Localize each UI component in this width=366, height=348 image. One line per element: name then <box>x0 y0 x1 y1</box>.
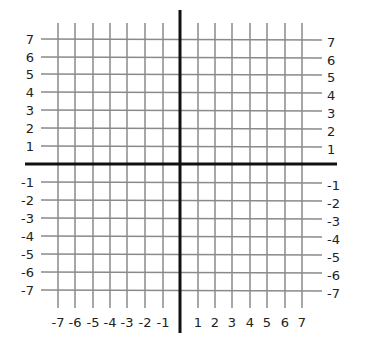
y-axis-label-right: -1 <box>327 178 340 193</box>
y-axis-label-right: 2 <box>327 124 335 139</box>
y-axis-label-left: 2 <box>26 121 34 136</box>
y-axis-label-right: 6 <box>327 53 335 68</box>
y-axis-label-left: -3 <box>21 211 34 226</box>
y-axis-label-left: 4 <box>26 85 34 100</box>
y-axis-label-right: -6 <box>327 268 340 283</box>
x-axis-label: -3 <box>121 315 134 330</box>
y-axis-label-left: -6 <box>21 265 34 280</box>
y-axis-label-right: -4 <box>327 232 340 247</box>
y-axis-label-left: 5 <box>26 67 34 82</box>
y-axis-label-left: 3 <box>26 103 34 118</box>
y-axis-label-right: -5 <box>327 250 340 265</box>
y-axis-label-right: -3 <box>327 214 340 229</box>
x-axis-label: -6 <box>69 315 82 330</box>
y-axis-label-left: 6 <box>26 50 34 65</box>
coordinate-plane: -7-6-5-4-3-2-112345677654321-1-2-3-4-5-6… <box>0 0 366 348</box>
y-axis-label-right: -7 <box>327 286 340 301</box>
x-axis-label: -5 <box>87 315 100 330</box>
y-axis-label-left: -5 <box>21 247 34 262</box>
x-axis-label: 7 <box>298 315 306 330</box>
y-axis-label-left: -7 <box>21 283 34 298</box>
x-axis-label: 5 <box>263 315 271 330</box>
y-axis-label-right: -2 <box>327 196 340 211</box>
y-axis-label-left: 7 <box>26 32 34 47</box>
y-axis-label-right: 7 <box>327 35 335 50</box>
y-axis-label-left: -4 <box>21 229 34 244</box>
x-axis-label: 1 <box>194 315 202 330</box>
x-axis-label: 2 <box>211 315 219 330</box>
y-axis-label-right: 5 <box>327 70 335 85</box>
x-axis-label: 4 <box>246 315 254 330</box>
y-axis-label-right: 3 <box>327 106 335 121</box>
x-axis-label: -4 <box>104 315 117 330</box>
x-axis-label: -2 <box>139 315 152 330</box>
y-axis-label-left: -2 <box>21 193 34 208</box>
y-axis-label-left: 1 <box>26 139 34 154</box>
y-axis-label-right: 1 <box>327 142 335 157</box>
x-axis-label: -7 <box>52 315 65 330</box>
y-axis-label-right: 4 <box>327 88 335 103</box>
x-axis-label: -1 <box>157 315 170 330</box>
x-axis-label: 6 <box>281 315 289 330</box>
y-axis-label-left: -1 <box>21 175 34 190</box>
x-axis-label: 3 <box>228 315 236 330</box>
